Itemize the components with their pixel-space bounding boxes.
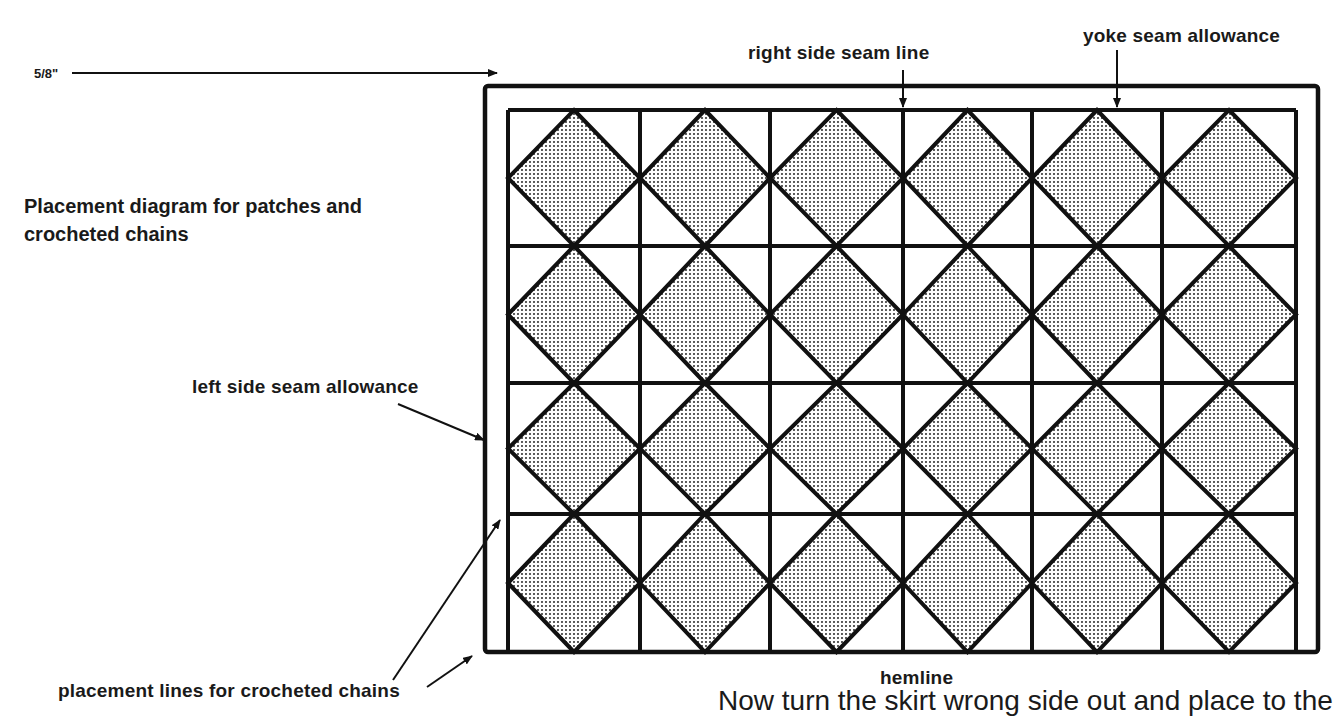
patch-diamond (1162, 246, 1296, 383)
patch-diamond (770, 110, 903, 246)
arrow-placement-line-horizontal (427, 656, 472, 687)
patch-diamond (508, 110, 640, 246)
patch-diamond (770, 383, 903, 514)
patch-diamond (770, 246, 903, 383)
patch-diamond (640, 110, 770, 246)
patch-diamond (1162, 110, 1296, 246)
patch-diamond (903, 514, 1032, 652)
patch-diamond (508, 246, 640, 383)
patch-diamond (903, 110, 1032, 246)
patch-diamond (1162, 383, 1296, 514)
patch-diamond (640, 246, 770, 383)
patch-diamond (1032, 246, 1162, 383)
patch-diamond (640, 383, 770, 514)
patch-diamond (1162, 514, 1296, 652)
patch-diamond (508, 383, 640, 514)
arrow-left-side-seam-allowance (398, 404, 484, 440)
patch-diamond (1032, 383, 1162, 514)
patch-diamond (903, 246, 1032, 383)
patch-diamond (640, 514, 770, 652)
patch-diamond (1032, 514, 1162, 652)
patch-diamond (508, 514, 640, 652)
patch-diamond (770, 514, 903, 652)
patch-diamond (903, 383, 1032, 514)
patch-diamond (1032, 110, 1162, 246)
